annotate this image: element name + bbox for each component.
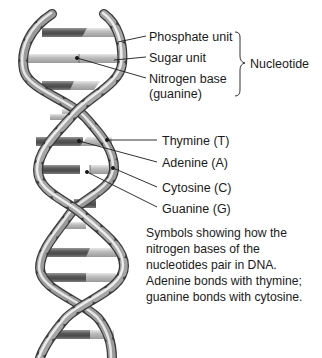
label-nucleotide-group: Nucleotide [250,57,309,71]
caption-line: guanine bonds with cytosine. [146,289,322,305]
caption-line: Adenine bonds with thymine; [146,273,322,289]
caption-line: nitrogen bases of the [146,241,322,257]
diagram-caption: Symbols showing how the nitrogen bases o… [146,225,322,305]
label-guanine-note: (guanine) [149,87,202,101]
label-guanine: Guanine (G) [162,202,231,216]
leader-cytosine [113,168,157,187]
label-adenine: Adenine (A) [162,156,228,170]
label-cytosine: Cytosine (C) [162,181,231,195]
dna-diagram: Phosphate unit Sugar unit Nitrogen base … [0,0,322,358]
caption-line: nucleotides pair in DNA. [146,257,322,273]
nucleotide-brace [235,32,245,96]
label-phosphate-unit: Phosphate unit [149,30,232,44]
label-sugar-unit: Sugar unit [149,51,206,65]
label-thymine: Thymine (T) [162,134,229,148]
label-nitrogen-base: Nitrogen base [149,72,227,86]
caption-line: Symbols showing how the [146,225,322,241]
